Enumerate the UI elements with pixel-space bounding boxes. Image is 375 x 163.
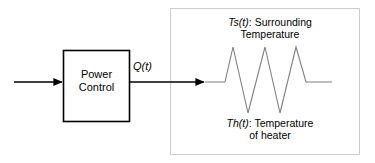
surrounding-temperature-label: Ts(t): SurroundingTemperature xyxy=(181,16,359,41)
surrounding-temperature-text-line1: Surrounding xyxy=(255,16,312,28)
heat-flow-label: Q(t) xyxy=(133,60,152,73)
diagram-canvas: PowerControl Q(t) Ts(t): SurroundingTemp… xyxy=(0,0,375,163)
power-control-label-line1: Power xyxy=(81,68,112,80)
heater-temperature-text-line2: of heater xyxy=(249,129,290,141)
surrounding-temperature-text-line2: Temperature xyxy=(241,28,300,40)
power-control-label: PowerControl xyxy=(63,68,130,94)
heater-temperature-variable: Th(t) xyxy=(227,117,249,129)
heater-temperature-text-line1: Temperature xyxy=(254,117,313,129)
power-control-label-line2: Control xyxy=(79,81,114,93)
heater-temperature-label: Th(t): Temperatureof heater xyxy=(181,117,359,142)
surrounding-temperature-variable: Ts(t) xyxy=(228,16,249,28)
